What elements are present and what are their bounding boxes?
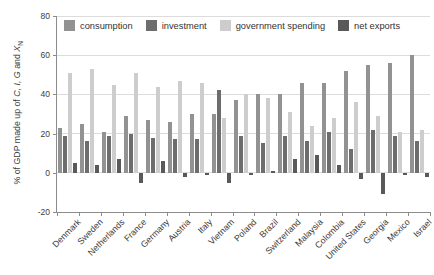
bar-net-exports-mexico bbox=[403, 173, 407, 175]
bar-consumption-austria bbox=[168, 122, 172, 173]
bar-investment-israel bbox=[415, 141, 419, 172]
legend-label: consumption bbox=[80, 21, 133, 31]
y-tick-label: 0 bbox=[20, 169, 50, 177]
bar-net-exports-italy bbox=[205, 173, 209, 175]
bar-government-spending-vietnam bbox=[222, 118, 226, 173]
bar-net-exports-vietnam bbox=[227, 173, 231, 183]
bar-net-exports-georgia bbox=[381, 173, 385, 195]
bar-consumption-france bbox=[124, 116, 128, 173]
bar-government-spending-switzerland bbox=[288, 112, 292, 173]
bar-investment-mexico bbox=[393, 136, 397, 173]
bar-investment-netherlands bbox=[107, 136, 111, 173]
bar-consumption-united-states bbox=[344, 71, 348, 173]
y-tick bbox=[53, 94, 57, 95]
bar-consumption-italy bbox=[190, 114, 194, 173]
gdp-composition-bar-chart: % of GDP made up of C, I, G and XN consu… bbox=[0, 0, 434, 275]
bar-investment-georgia bbox=[371, 130, 375, 173]
legend-swatch-icon bbox=[64, 20, 75, 31]
bar-investment-germany bbox=[151, 138, 155, 173]
y-tick-label: 80 bbox=[20, 12, 50, 20]
bar-government-spending-netherlands bbox=[112, 85, 116, 173]
bar-government-spending-italy bbox=[200, 83, 204, 173]
x-tick bbox=[189, 212, 190, 216]
y-tick bbox=[53, 173, 57, 174]
legend-label: investment bbox=[162, 21, 207, 31]
bar-government-spending-sweden bbox=[90, 69, 94, 173]
legend-swatch-icon bbox=[220, 20, 231, 31]
legend-item-government-spending: government spending bbox=[220, 20, 325, 31]
x-tick bbox=[123, 212, 124, 216]
x-tick bbox=[276, 212, 277, 216]
category-label-israel: Israel bbox=[412, 217, 434, 239]
bar-net-exports-poland bbox=[249, 173, 253, 175]
bar-net-exports-brazil bbox=[271, 171, 275, 173]
bar-government-spending-france bbox=[134, 73, 138, 173]
bar-consumption-denmark bbox=[58, 128, 62, 173]
gridline bbox=[57, 55, 430, 56]
x-tick bbox=[167, 212, 168, 216]
bar-investment-united-states bbox=[349, 149, 353, 173]
bar-consumption-brazil bbox=[256, 94, 260, 172]
legend-swatch-icon bbox=[338, 20, 349, 31]
bar-net-exports-malaysia bbox=[315, 155, 319, 173]
legend-item-consumption: consumption bbox=[64, 20, 133, 31]
legend-item-investment: investment bbox=[146, 20, 207, 31]
x-tick bbox=[430, 212, 431, 216]
bar-government-spending-malaysia bbox=[310, 126, 314, 173]
bar-investment-denmark bbox=[63, 136, 67, 173]
category-label-austria: Austria bbox=[166, 217, 192, 243]
bar-net-exports-switzerland bbox=[293, 159, 297, 173]
bar-government-spending-germany bbox=[156, 87, 160, 173]
bar-investment-poland bbox=[239, 136, 243, 173]
bar-consumption-georgia bbox=[366, 65, 370, 173]
bar-government-spending-poland bbox=[244, 94, 248, 172]
legend-label: government spending bbox=[236, 21, 325, 31]
y-tick bbox=[53, 134, 57, 135]
category-label-poland: Poland bbox=[232, 217, 258, 243]
x-tick bbox=[145, 212, 146, 216]
bar-net-exports-colombia bbox=[337, 165, 341, 173]
bar-consumption-sweden bbox=[80, 124, 84, 173]
bar-government-spending-georgia bbox=[376, 116, 380, 173]
bar-consumption-netherlands bbox=[102, 132, 106, 173]
bar-government-spending-mexico bbox=[398, 132, 402, 173]
bar-investment-vietnam bbox=[217, 90, 221, 172]
bar-investment-austria bbox=[173, 139, 177, 172]
y-tick-label: 60 bbox=[20, 51, 50, 59]
bar-investment-italy bbox=[195, 139, 199, 172]
bar-investment-switzerland bbox=[283, 136, 287, 173]
bar-government-spending-brazil bbox=[266, 98, 270, 172]
bar-net-exports-united-states bbox=[359, 173, 363, 179]
x-tick bbox=[364, 212, 365, 216]
y-tick bbox=[53, 16, 57, 17]
x-tick bbox=[79, 212, 80, 216]
y-tick-label: -20 bbox=[20, 208, 50, 216]
x-tick bbox=[298, 212, 299, 216]
bar-net-exports-netherlands bbox=[117, 159, 121, 173]
y-tick-label: 40 bbox=[20, 90, 50, 98]
bar-consumption-switzerland bbox=[278, 94, 282, 172]
bar-net-exports-israel bbox=[425, 173, 429, 177]
y-tick bbox=[53, 55, 57, 56]
bar-consumption-malaysia bbox=[300, 83, 304, 173]
x-axis-line bbox=[56, 212, 431, 213]
x-tick bbox=[386, 212, 387, 216]
x-tick bbox=[101, 212, 102, 216]
x-tick bbox=[254, 212, 255, 216]
legend-swatch-icon bbox=[146, 20, 157, 31]
x-tick bbox=[342, 212, 343, 216]
plot-area bbox=[57, 16, 430, 212]
legend-item-net-exports: net exports bbox=[338, 20, 400, 31]
bar-investment-sweden bbox=[85, 141, 89, 172]
bar-government-spending-austria bbox=[178, 81, 182, 173]
category-label-mexico: Mexico bbox=[385, 217, 412, 244]
bar-net-exports-france bbox=[139, 173, 143, 183]
bar-net-exports-sweden bbox=[95, 165, 99, 173]
y-axis-line bbox=[56, 16, 57, 213]
bar-investment-malaysia bbox=[305, 141, 309, 172]
bar-government-spending-denmark bbox=[68, 73, 72, 173]
bar-investment-france bbox=[129, 134, 133, 173]
bar-consumption-poland bbox=[234, 100, 238, 173]
bar-government-spending-colombia bbox=[332, 118, 336, 173]
x-tick bbox=[211, 212, 212, 216]
